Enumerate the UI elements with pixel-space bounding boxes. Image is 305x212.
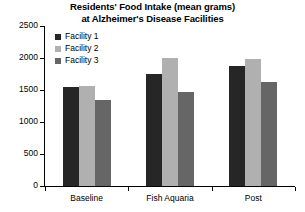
y-axis-tick-label: 1500 bbox=[0, 85, 38, 94]
legend-item: Facility 2 bbox=[55, 43, 99, 54]
x-axis-tick bbox=[212, 187, 213, 191]
bar-post-facility-3 bbox=[261, 82, 277, 186]
legend-swatch-icon bbox=[55, 34, 61, 40]
bar-fish-aquaria-facility-1 bbox=[146, 74, 162, 186]
legend-label: Facility 1 bbox=[65, 32, 99, 41]
x-axis-label-fish-aquaria: Fish Aquaria bbox=[128, 193, 211, 203]
bar-post-facility-2 bbox=[245, 59, 261, 186]
chart-title-line-1: Residents' Food Intake (mean grams) bbox=[0, 1, 305, 13]
legend-label: Facility 3 bbox=[65, 56, 99, 65]
y-axis-tick bbox=[40, 186, 44, 187]
bar-fish-aquaria-facility-2 bbox=[162, 58, 178, 186]
y-axis-tick-label: 500 bbox=[0, 149, 38, 158]
y-axis-tick bbox=[40, 26, 44, 27]
bar-baseline-facility-1 bbox=[63, 87, 79, 186]
bar-post-facility-1 bbox=[229, 66, 245, 186]
x-axis-line bbox=[44, 186, 295, 187]
legend-swatch-icon bbox=[55, 46, 61, 52]
chart-legend: Facility 1Facility 2Facility 3 bbox=[55, 31, 99, 67]
bar-baseline-facility-2 bbox=[79, 86, 95, 186]
chart-title-line-2: at Alzheimer's Disease Facilities bbox=[0, 13, 305, 25]
x-axis-tick bbox=[295, 187, 296, 191]
legend-item: Facility 1 bbox=[55, 31, 99, 42]
legend-label: Facility 2 bbox=[65, 44, 99, 53]
legend-item: Facility 3 bbox=[55, 55, 99, 66]
y-axis-tick bbox=[40, 154, 44, 155]
bar-baseline-facility-3 bbox=[95, 100, 111, 186]
y-axis-tick bbox=[40, 58, 44, 59]
bar-chart: Residents' Food Intake (mean grams) at A… bbox=[0, 0, 305, 212]
y-axis-tick-label: 0 bbox=[0, 181, 38, 190]
y-axis-tick bbox=[40, 122, 44, 123]
bar-fish-aquaria-facility-3 bbox=[178, 92, 194, 186]
y-axis-tick-label: 2000 bbox=[0, 53, 38, 62]
x-axis-tick bbox=[128, 187, 129, 191]
y-axis-tick bbox=[40, 90, 44, 91]
y-axis-tick-label: 1000 bbox=[0, 117, 38, 126]
chart-title: Residents' Food Intake (mean grams) at A… bbox=[0, 1, 305, 24]
x-axis-label-post: Post bbox=[212, 193, 295, 203]
x-axis-tick bbox=[45, 187, 46, 191]
y-axis-tick-label: 2500 bbox=[0, 21, 38, 30]
legend-swatch-icon bbox=[55, 58, 61, 64]
x-axis-label-baseline: Baseline bbox=[45, 193, 128, 203]
